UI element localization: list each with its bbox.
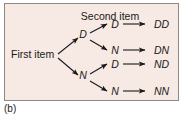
node-second-DD: D [111,18,119,30]
branch-root-to-D [58,38,78,54]
node-second-NN: N [111,85,119,97]
node-second-ND: D [111,58,119,70]
tree-diagram-svg: Second item First item D N D N D N [5,4,178,100]
outcome-NN: NN [154,85,170,97]
branch-N-to-N [90,81,107,91]
first-item-label: First item [11,48,54,60]
branch-N-to-D [90,64,107,74]
second-item-heading: Second item [81,10,140,22]
figure-caption: (b) [4,103,16,114]
branch-D-to-N [90,40,107,50]
branch-root-to-N [58,58,78,75]
node-second-DN: N [111,44,119,56]
branch-D-to-D [90,24,107,33]
outcome-DD: DD [154,18,170,30]
node-first-D: D [79,28,87,40]
tree-diagram-panel: Second item First item D N D N D N [4,3,179,101]
outcome-ND: ND [154,58,170,70]
node-first-N: N [79,69,87,81]
outcome-DN: DN [154,44,170,56]
figure-container: Second item First item D N D N D N [0,0,184,121]
